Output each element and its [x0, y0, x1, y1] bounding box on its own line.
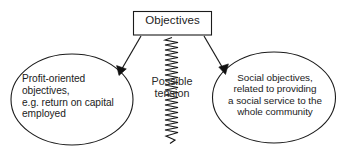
- left-ellipse-shape[interactable]: [11, 54, 133, 145]
- right-ellipse-shape[interactable]: [213, 52, 336, 143]
- left-arrow-connector: [117, 36, 141, 76]
- diagram-graphics: [0, 0, 343, 153]
- objectives-box-shape[interactable]: [134, 12, 212, 36]
- left-arrow-line: [122, 36, 142, 70]
- right-arrow-connector: [204, 36, 228, 75]
- tension-spring-icon: [165, 38, 178, 144]
- right-arrow-line: [204, 36, 223, 69]
- diagram-canvas: Objectives Profit-oriented objectives, e…: [0, 0, 343, 153]
